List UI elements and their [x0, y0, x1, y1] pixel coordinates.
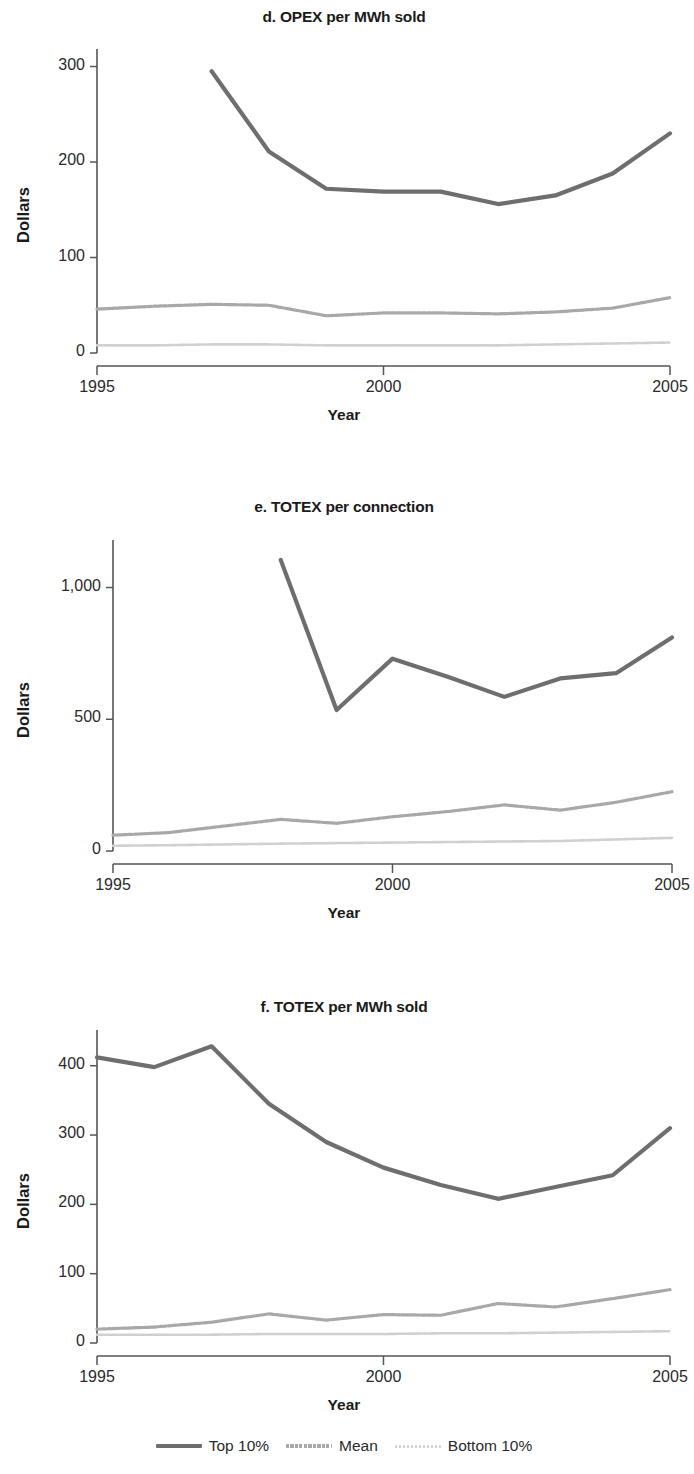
series-line-top-10 — [212, 71, 670, 204]
x-tick-label: 2005 — [630, 1368, 694, 1386]
x-tick-label: 2000 — [344, 1368, 424, 1386]
legend-label: Bottom 10% — [448, 1437, 532, 1455]
series-line-mean — [113, 792, 672, 835]
x-tick-label: 2000 — [353, 876, 433, 894]
series-line-top-10 — [281, 560, 672, 710]
y-tick-label: 0 — [76, 342, 85, 360]
legend-label: Top 10% — [209, 1437, 269, 1455]
x-tick-label: 2005 — [630, 378, 694, 396]
y-tick-label: 0 — [92, 840, 101, 858]
series-line-top-10 — [97, 1046, 670, 1199]
x-tick-label: 1995 — [57, 378, 137, 396]
x-tick-label: 1995 — [57, 1368, 137, 1386]
y-tick-label: 200 — [58, 1193, 85, 1211]
series-line-bottom-10 — [113, 838, 672, 846]
y-tick-label: 0 — [76, 1332, 85, 1350]
series-line-bottom-10 — [97, 1331, 670, 1334]
series-line-bottom-10 — [97, 343, 670, 346]
legend-item-top[interactable]: Top 10% — [156, 1437, 269, 1455]
x-axis-label: Year — [0, 904, 688, 922]
x-tick-label: 2000 — [344, 378, 424, 396]
y-tick-label: 400 — [58, 1055, 85, 1073]
x-tick-label: 1995 — [73, 876, 153, 894]
series-line-mean — [97, 1290, 670, 1330]
legend-label: Mean — [339, 1437, 378, 1455]
legend-item-bottom[interactable]: Bottom 10% — [395, 1437, 532, 1455]
series-line-mean — [97, 298, 670, 316]
y-tick-label: 300 — [58, 1124, 85, 1142]
y-tick-label: 200 — [58, 151, 85, 169]
chart-panel-2: e. TOTEX per connectionDollars05001,0001… — [0, 490, 688, 990]
x-tick-label: 2005 — [632, 876, 694, 894]
y-tick-label: 1,000 — [61, 577, 101, 595]
x-axis-label: Year — [0, 1396, 688, 1414]
chart-legend: Top 10%MeanBottom 10% — [0, 1437, 688, 1455]
legend-swatch-mean-icon — [286, 1444, 332, 1448]
x-axis-label: Year — [0, 406, 688, 424]
legend-swatch-top-icon — [156, 1444, 202, 1449]
plot-area — [0, 0, 688, 440]
y-tick-label: 100 — [58, 247, 85, 265]
y-tick-label: 500 — [74, 708, 101, 726]
chart-panel-1: d. OPEX per MWh soldDollars0100200300199… — [0, 0, 688, 440]
chart-panel-3: f. TOTEX per MWh soldDollars010020030040… — [0, 990, 688, 1474]
legend-item-mean[interactable]: Mean — [286, 1437, 378, 1455]
y-tick-label: 100 — [58, 1263, 85, 1281]
y-tick-label: 300 — [58, 56, 85, 74]
legend-swatch-bottom-icon — [395, 1445, 441, 1448]
